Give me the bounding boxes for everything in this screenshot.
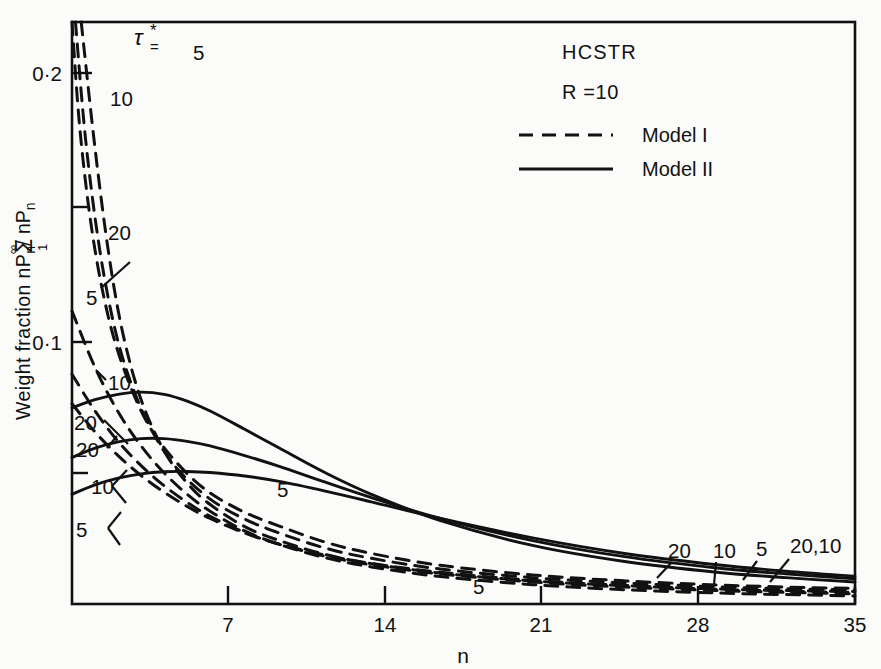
curve-label-solid-10: 10 [91, 475, 114, 498]
curve-label-inline-dashed-5: 5 [473, 575, 484, 598]
y-title-text-1: Weight fraction nP [12, 254, 34, 420]
curve-label-dashed-5-top: 5 [193, 41, 204, 64]
x-tick-label-35: 35 [844, 613, 867, 636]
y-tick-label-0.2: 0·2 [32, 62, 62, 85]
tau-symbol: τ [134, 24, 144, 50]
x-tick-label-28: 28 [687, 613, 710, 636]
y-title-sigma-upper: ∞ [5, 245, 20, 254]
curve-label-right-20-10: 20,10 [790, 534, 841, 557]
x-tick-label-7: 7 [222, 613, 233, 636]
y-title-text-2: nP [12, 210, 34, 234]
curve-label-dashed-10-top: 10 [110, 87, 133, 110]
x-tick-label-14: 14 [374, 613, 397, 636]
annotation-ratio: R =10 [562, 81, 619, 103]
curve-label-dashed-5-low: 5 [86, 286, 97, 309]
curve-label-right-5: 5 [756, 537, 767, 560]
tau-equals-glyph: = [150, 38, 159, 55]
curve-label-dashed-20-top: 20 [108, 221, 131, 244]
curve-label-solid-5: 5 [76, 518, 87, 541]
curve-label-right-20: 20 [668, 539, 691, 562]
legend-label-model-1: Model I [642, 124, 708, 146]
x-tick-label-21: 21 [530, 613, 553, 636]
chart-svg: 0·2 0·1 Weight fraction nPn/ Σ ∞ 1 nPn 7 [0, 0, 881, 669]
curve-label-solid-20: 20 [76, 438, 99, 461]
annotation-hcstr: HCSTR [562, 41, 637, 63]
curve-label-dashed-10-low: 10 [108, 371, 131, 394]
curve-label-right-10: 10 [713, 539, 736, 562]
y-title-sub-n-2: n [22, 202, 38, 210]
x-axis-title: n [457, 644, 469, 667]
y-title-sigma-lower: 1 [35, 244, 50, 251]
y-tick-label-0.1: 0·1 [32, 331, 62, 354]
legend-label-model-2: Model II [642, 158, 713, 180]
curve-label-inline-solid-5: 5 [277, 478, 288, 501]
figure-container: 0·2 0·1 Weight fraction nPn/ Σ ∞ 1 nPn 7 [0, 0, 881, 669]
curve-label-dashed-20-low: 20 [74, 411, 97, 434]
